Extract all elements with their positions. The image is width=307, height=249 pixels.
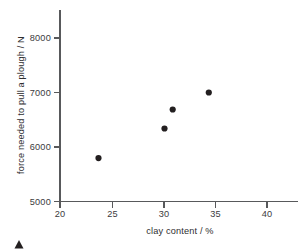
data-point-4 bbox=[206, 89, 212, 95]
x-axis-ticks bbox=[60, 202, 267, 208]
x-tick-label-20: 20 bbox=[55, 209, 66, 219]
x-tick-label-35: 35 bbox=[210, 209, 221, 219]
scatter-plot: 8000 7000 6000 5000 20 25 30 35 40 clay … bbox=[0, 0, 307, 249]
y-tick-label-7000: 7000 bbox=[30, 88, 51, 98]
data-point-2 bbox=[161, 125, 167, 131]
y-tick-label-5000: 5000 bbox=[30, 197, 51, 207]
data-point-series bbox=[95, 89, 211, 161]
data-point-1 bbox=[95, 155, 101, 161]
y-tick-label-8000: 8000 bbox=[30, 33, 51, 43]
x-axis-title: clay content / % bbox=[146, 226, 213, 236]
caret-up-icon bbox=[15, 240, 24, 249]
chart-page: 8000 7000 6000 5000 20 25 30 35 40 clay … bbox=[0, 0, 307, 249]
y-axis-tick-labels: 8000 7000 6000 5000 bbox=[30, 33, 51, 207]
x-tick-label-40: 40 bbox=[262, 209, 273, 219]
data-point-3 bbox=[170, 106, 176, 112]
x-tick-label-30: 30 bbox=[159, 209, 170, 219]
y-axis-title: force needed to pull a plough / N bbox=[16, 36, 26, 174]
x-tick-label-25: 25 bbox=[107, 209, 118, 219]
y-tick-label-6000: 6000 bbox=[30, 142, 51, 152]
x-axis-tick-labels: 20 25 30 35 40 bbox=[55, 209, 273, 219]
